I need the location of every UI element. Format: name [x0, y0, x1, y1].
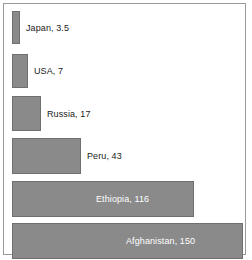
bar-russia [12, 96, 41, 131]
bar-row: Ethiopia, 116 [4, 181, 245, 217]
bar-label-afghanistan: Afghanistan, 150 [126, 237, 195, 246]
chart-frame: Japan, 3.5 USA, 7 Russia, 17 Peru, 43 Et… [3, 3, 246, 255]
bar-usa [12, 54, 28, 88]
bar-row: Russia, 17 [4, 96, 245, 131]
bar-row: Peru, 43 [4, 138, 245, 174]
bar-japan [12, 11, 20, 44]
bar-label-russia: Russia, 17 [47, 109, 91, 118]
bar-peru [12, 138, 81, 174]
bar-row: USA, 7 [4, 54, 245, 88]
plot-area: Japan, 3.5 USA, 7 Russia, 17 Peru, 43 Et… [4, 4, 245, 254]
screenshot-root: Japan, 3.5 USA, 7 Russia, 17 Peru, 43 Et… [0, 0, 252, 260]
bar-row: Japan, 3.5 [4, 11, 245, 44]
bar-label-usa: USA, 7 [34, 67, 63, 76]
bar-label-peru: Peru, 43 [87, 152, 122, 161]
bar-label-ethiopia: Ethiopia, 116 [96, 195, 149, 204]
bar-label-japan: Japan, 3.5 [26, 23, 69, 32]
bar-row: Afghanistan, 150 [4, 223, 245, 259]
